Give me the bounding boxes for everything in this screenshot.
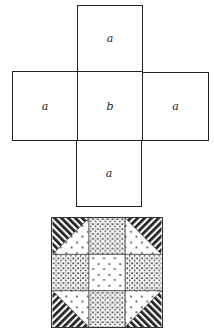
square-label: a <box>106 167 113 180</box>
square-bottom: a <box>76 140 142 207</box>
square-top: a <box>77 5 143 72</box>
square-center: b <box>77 71 143 141</box>
quilt-block <box>51 217 163 328</box>
square-label: a <box>172 100 179 113</box>
square-label: b <box>106 100 113 113</box>
square-right: a <box>142 72 209 141</box>
square-label: a <box>42 100 49 113</box>
square-label: a <box>107 32 114 45</box>
square-left: a <box>12 71 78 141</box>
quilt-pattern-graphic <box>52 218 162 327</box>
